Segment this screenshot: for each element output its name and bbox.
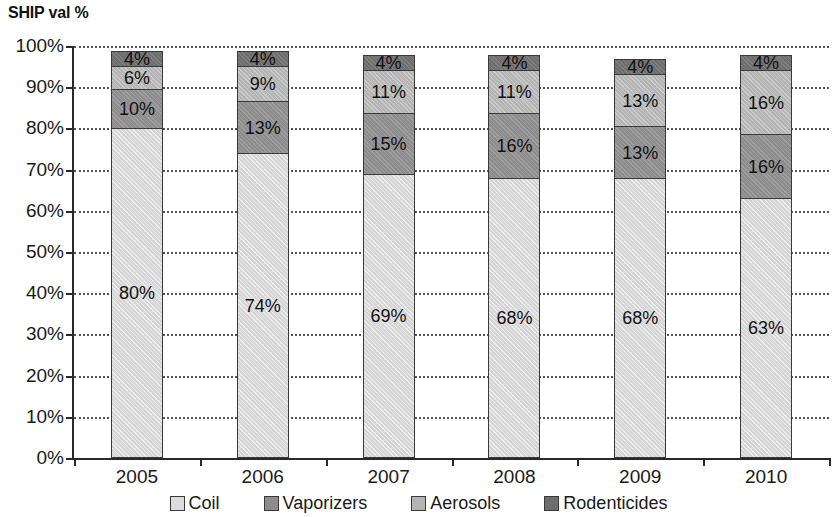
y-axis-tick: [66, 46, 74, 48]
bar-segment-label: 4%: [124, 50, 150, 68]
bar-segment-label: 4%: [627, 58, 653, 76]
y-axis-tick: [66, 211, 74, 213]
y-axis-tick: [66, 458, 74, 460]
bar-segment-vaporizers[interactable]: 10%: [111, 89, 163, 130]
y-axis-tick: [66, 170, 74, 172]
gridline: [74, 376, 829, 378]
bar-segment-label: 13%: [245, 119, 281, 137]
bar-segment-vaporizers[interactable]: 13%: [237, 101, 289, 155]
x-axis-tick: [200, 458, 202, 466]
bar-segment-coil[interactable]: 69%: [363, 174, 415, 458]
bar-segment-label: 11%: [371, 83, 406, 101]
bar-segment-vaporizers[interactable]: 16%: [740, 134, 792, 200]
bar-segment-label: 4%: [753, 54, 779, 72]
legend-label: Vaporizers: [283, 493, 368, 514]
legend-item-vaporizers[interactable]: Vaporizers: [264, 493, 368, 514]
bar-segment-label: 15%: [371, 135, 407, 153]
bar-segment-aerosols[interactable]: 13%: [614, 74, 666, 128]
bar-segment-label: 63%: [748, 319, 784, 337]
y-axis-tick: [66, 128, 74, 130]
bar-2009[interactable]: 4%13%13%68%: [614, 60, 666, 458]
stacked-bar-chart: SHIP val % 0%10%20%30%40%50%60%70%80%90%…: [0, 0, 837, 517]
bar-segment-label: 69%: [371, 307, 407, 325]
legend-label: Rodenticides: [563, 493, 667, 514]
bar-2010[interactable]: 4%16%16%63%: [740, 56, 792, 458]
bar-segment-vaporizers[interactable]: 15%: [363, 113, 415, 175]
bar-segment-label: 6%: [124, 69, 150, 87]
bar-segment-label: 13%: [622, 144, 658, 162]
x-axis-tick: [703, 458, 705, 466]
bar-2006[interactable]: 4%9%13%74%: [237, 52, 289, 458]
gridline: [74, 334, 829, 336]
legend-swatch-aerosols: [411, 496, 426, 511]
y-axis-tick-label: 90%: [2, 76, 64, 98]
legend-item-coil[interactable]: Coil: [170, 493, 220, 514]
bar-segment-aerosols[interactable]: 11%: [488, 70, 540, 115]
y-axis-tick-label: 10%: [2, 406, 64, 428]
y-axis-tick-label: 70%: [2, 159, 64, 181]
bar-segment-label: 16%: [748, 158, 784, 176]
y-axis-tick-label: 50%: [2, 241, 64, 263]
bar-segment-coil[interactable]: 63%: [740, 198, 792, 458]
bar-segment-label: 68%: [622, 309, 658, 327]
bar-segment-label: 80%: [119, 284, 155, 302]
plot-area: 4%6%10%80%4%9%13%74%4%11%15%69%4%11%16%6…: [74, 46, 829, 458]
legend-swatch-vaporizers: [264, 496, 279, 511]
bar-segment-label: 9%: [250, 75, 276, 93]
y-axis-tick-label: 100%: [2, 35, 64, 57]
bar-segment-vaporizers[interactable]: 16%: [488, 113, 540, 179]
bar-2007[interactable]: 4%11%15%69%: [363, 56, 415, 458]
bar-segment-label: 4%: [250, 50, 276, 68]
legend-item-rodenticides[interactable]: Rodenticides: [544, 493, 667, 514]
x-axis-tick: [452, 458, 454, 466]
legend-label: Coil: [189, 493, 220, 514]
bar-segment-label: 16%: [748, 94, 784, 112]
bar-segment-label: 13%: [622, 92, 658, 110]
gridline: [74, 293, 829, 295]
bar-segment-aerosols[interactable]: 6%: [111, 66, 163, 91]
bar-segment-coil[interactable]: 68%: [614, 178, 666, 458]
chart-legend: CoilVaporizersAerosolsRodenticides: [0, 490, 837, 516]
x-axis-tick-label: 2010: [745, 466, 787, 488]
legend-item-aerosols[interactable]: Aerosols: [411, 493, 500, 514]
bar-segment-aerosols[interactable]: 11%: [363, 70, 415, 115]
x-axis-tick-label: 2008: [493, 466, 535, 488]
y-axis-tick-label: 80%: [2, 117, 64, 139]
gridline: [74, 128, 829, 130]
y-axis-tick: [66, 417, 74, 419]
y-axis-tick: [66, 293, 74, 295]
legend-label: Aerosols: [430, 493, 500, 514]
gridline: [74, 417, 829, 419]
x-axis-tick: [74, 458, 76, 466]
bar-segment-label: 11%: [497, 83, 532, 101]
bar-segment-label: 4%: [376, 54, 402, 72]
x-axis-tick: [577, 458, 579, 466]
y-axis-labels: 0%10%20%30%40%50%60%70%80%90%100%: [0, 0, 64, 517]
y-axis-tick: [66, 87, 74, 89]
gridline: [74, 252, 829, 254]
x-axis-tick-label: 2005: [116, 466, 158, 488]
y-axis-tick: [66, 376, 74, 378]
gridline: [74, 46, 829, 48]
gridline: [74, 170, 829, 172]
y-axis-tick: [66, 334, 74, 336]
bar-segment-vaporizers[interactable]: 13%: [614, 126, 666, 180]
bar-segment-coil[interactable]: 80%: [111, 128, 163, 458]
bar-segment-label: 68%: [496, 309, 532, 327]
x-axis-tick-label: 2006: [242, 466, 284, 488]
y-axis-tick-label: 20%: [2, 365, 64, 387]
gridline: [74, 87, 829, 89]
bar-segment-aerosols[interactable]: 16%: [740, 70, 792, 136]
bar-segment-label: 16%: [496, 137, 532, 155]
bar-segment-coil[interactable]: 68%: [488, 178, 540, 458]
y-axis-tick-label: 30%: [2, 323, 64, 345]
bar-segment-label: 74%: [245, 297, 281, 315]
y-axis-tick-label: 40%: [2, 282, 64, 304]
bar-segment-aerosols[interactable]: 9%: [237, 66, 289, 103]
bar-2005[interactable]: 4%6%10%80%: [111, 52, 163, 458]
bar-2008[interactable]: 4%11%16%68%: [488, 56, 540, 458]
bar-segment-coil[interactable]: 74%: [237, 153, 289, 458]
x-axis-tick-label: 2007: [367, 466, 409, 488]
y-axis-tick-label: 60%: [2, 200, 64, 222]
bar-segment-label: 10%: [119, 100, 155, 118]
